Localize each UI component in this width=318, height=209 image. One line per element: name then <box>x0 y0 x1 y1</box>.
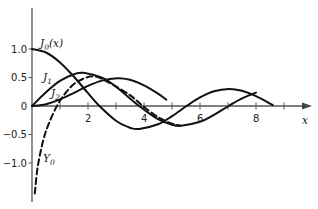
y-tick-label: −0.5 <box>3 129 27 140</box>
x-tick-label: 4 <box>141 113 147 124</box>
y-ticks: 1.00.50−0.5−1.0 <box>3 44 32 169</box>
y-tick-label: 0.5 <box>11 72 27 83</box>
label-j1: J1 <box>41 71 52 86</box>
y-tick-label: −1.0 <box>3 158 27 169</box>
curves <box>32 49 273 193</box>
x-tick-label: 2 <box>85 113 91 124</box>
label-y0: Y0 <box>43 152 55 167</box>
x-axis-arrow-icon <box>302 103 312 110</box>
x-tick-label: 8 <box>253 113 259 124</box>
label-j0: J0(x) <box>38 37 63 52</box>
x-axis-label: x <box>302 114 308 126</box>
label-j2: J2 <box>49 87 60 102</box>
y-tick-label: 0 <box>21 101 27 112</box>
bessel-chart: 2468 1.00.50−0.5−1.0 x J0(x) J1 J2 Y0 <box>0 0 318 209</box>
y-tick-label: 1.0 <box>11 44 27 55</box>
